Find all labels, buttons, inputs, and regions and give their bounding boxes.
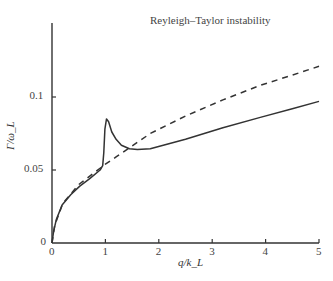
x-tick-label: 0: [49, 245, 55, 257]
x-tick-label: 2: [156, 245, 162, 257]
solid-curve: [52, 101, 319, 243]
x-tick-label: 4: [263, 245, 269, 257]
chart-title: Reyleigh–Taylor instability: [150, 14, 271, 26]
x-tick-label: 3: [209, 245, 215, 257]
y-tick-label: 0.1: [30, 89, 44, 101]
x-tick-label: 5: [316, 245, 322, 257]
y-tick-label: 0.05: [24, 162, 43, 174]
y-axis-label-text: Γ/ω_L: [4, 121, 16, 150]
dashed-curve: [52, 66, 319, 243]
x-axis-label: q/k_L: [178, 256, 203, 268]
y-tick-label: 0: [41, 235, 47, 247]
y-axis-label: Γ/ω_L: [4, 121, 16, 150]
x-tick-label: 1: [102, 245, 108, 257]
chart-canvas: [0, 0, 333, 281]
